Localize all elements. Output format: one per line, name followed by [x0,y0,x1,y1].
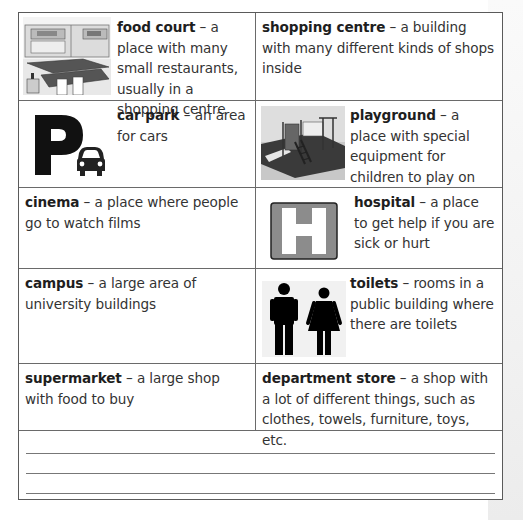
table-row: cinema – a place where people go to watc… [19,188,502,269]
vocab-term: food court [117,19,195,35]
vocab-term: campus [25,275,83,291]
vocab-cell-shopping-centre: shopping centre – a building with many d… [256,13,502,100]
hospital-sign-icon [270,202,338,260]
food-court-illustration [23,17,111,95]
writing-area[interactable] [19,431,502,499]
vocab-definition: playground – a place with special equipm… [350,105,496,187]
vocab-cell-car-park: car park – an area for cars [19,101,256,187]
vocab-term: hospital [354,194,415,210]
vocab-term: supermarket [25,370,122,386]
vocabulary-table: food court – a place with many small res… [18,12,503,500]
vocab-term: cinema [25,194,79,210]
writing-line[interactable] [26,473,495,474]
vocab-definition: toilets – rooms in a public building whe… [350,273,496,335]
table-row: food court – a place with many small res… [19,13,502,101]
vocab-cell-hospital: hospital – a place to get help if you ar… [256,188,502,268]
vocab-definition: campus – a large area of university buil… [25,273,249,314]
vocab-term: playground [350,107,436,123]
vocab-cell-toilets: toilets – rooms in a public building whe… [256,269,502,363]
vocab-term: toilets [350,275,398,291]
playground-illustration [261,106,345,180]
writing-line[interactable] [26,453,495,454]
vocab-term: department store [262,370,396,386]
vocab-definition: cinema – a place where people go to watc… [25,192,249,233]
vocab-cell-playground: playground – a place with special equipm… [256,101,502,187]
vocab-definition: car park – an area for cars [117,105,249,146]
vocab-cell-department-store: department store – a shop with a lot of … [256,364,502,430]
vocab-cell-campus: campus – a large area of university buil… [19,269,256,363]
vocab-definition: supermarket – a large shop with food to … [25,368,249,409]
parking-sign-icon [33,113,105,179]
writing-line[interactable] [26,493,495,494]
table-row: campus – a large area of university buil… [19,269,502,364]
vocab-cell-supermarket: supermarket – a large shop with food to … [19,364,256,430]
vocab-term: shopping centre [262,19,385,35]
vocab-cell-cinema: cinema – a place where people go to watc… [19,188,256,268]
toilets-sign-icon [262,281,346,357]
vocab-definition: hospital – a place to get help if you ar… [354,192,496,254]
vocab-term: car park [117,107,180,123]
table-row: supermarket – a large shop with food to … [19,364,502,431]
vocab-cell-food-court: food court – a place with many small res… [19,13,256,100]
table-row: car park – an area for cars [19,101,502,188]
vocab-definition: shopping centre – a building with many d… [262,17,496,79]
